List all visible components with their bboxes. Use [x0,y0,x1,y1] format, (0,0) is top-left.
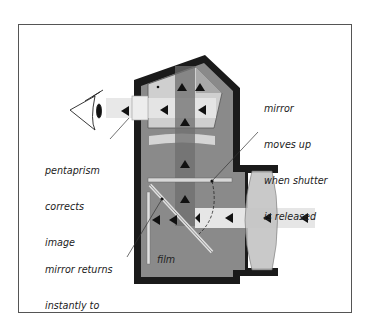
focusing-screen [148,178,232,182]
label-line: is released [264,211,328,223]
label-film: film [157,254,175,266]
internal-light-beam [195,208,248,228]
film-plane [147,192,150,264]
label-line: when shutter [264,175,328,187]
label-line: corrects [45,201,100,213]
eyepiece [132,96,148,120]
label-line: mirror returns [45,264,112,276]
eyepiece-light-beam [106,98,216,118]
label-line: moves up [264,139,328,151]
label-line: instantly to [45,300,112,312]
eye-icon [70,90,103,130]
label-mirror-returns: mirror returns instantly to viewing posi… [45,240,112,335]
label-line: pentaprism [45,165,100,177]
prism-point [157,86,160,89]
label-mirror-up: mirror moves up when shutter is released [264,79,328,235]
label-line: mirror [264,103,328,115]
